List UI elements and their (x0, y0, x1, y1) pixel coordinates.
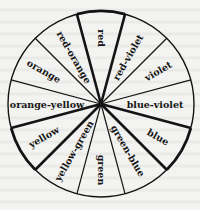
segment-label-orange-yellow: orange-yellow (10, 99, 85, 110)
segment-label-red-violet: red-violet (110, 32, 145, 82)
segment-label-yellow-green: yellow-green (52, 119, 96, 184)
segment-label-yellow: yellow (26, 124, 62, 151)
segment-label-blue: blue (145, 126, 171, 147)
segment-label-green: green (96, 155, 107, 186)
color-wheel: red red-violet violet blue-violet blue g… (0, 0, 200, 210)
segment-label-orange: orange (25, 57, 63, 85)
primary-rim-arc (167, 128, 191, 170)
segment-label-blue-violet: blue-violet (127, 99, 184, 110)
primary-rim-arc (77, 11, 125, 14)
segment-label-violet: violet (142, 59, 174, 84)
wheel-center-hub (99, 102, 104, 107)
segment-label-red: red (96, 29, 107, 47)
